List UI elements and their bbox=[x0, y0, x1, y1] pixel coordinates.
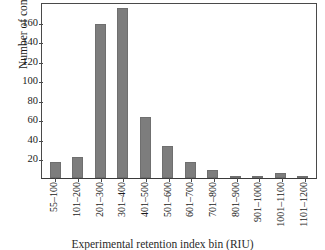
bar[interactable] bbox=[207, 170, 218, 178]
y-tick-mark bbox=[39, 121, 43, 122]
bar[interactable] bbox=[72, 157, 83, 179]
y-tick-mark bbox=[39, 82, 43, 83]
x-axis-title: Experimental retention index bin (RIU) bbox=[0, 238, 325, 250]
bar[interactable] bbox=[297, 176, 308, 178]
x-axis-tick-labels: 55–100101–200201–300301–400401–500501–60… bbox=[41, 183, 317, 233]
bar[interactable] bbox=[95, 24, 106, 178]
x-tick-label-wrap: 301–400 bbox=[116, 183, 128, 231]
x-tick-mark bbox=[282, 178, 283, 182]
bar[interactable] bbox=[162, 146, 173, 178]
x-tick-label-wrap: 901–1000 bbox=[252, 183, 264, 231]
y-tick-label: 80 bbox=[28, 96, 39, 106]
bar-cell bbox=[247, 4, 270, 178]
bar[interactable] bbox=[117, 8, 128, 178]
y-tick-label: 140 bbox=[22, 37, 38, 47]
x-tick-label: 501–600 bbox=[163, 182, 173, 234]
y-tick-mark bbox=[39, 160, 43, 161]
bar-cell bbox=[202, 4, 225, 178]
bar-cell bbox=[224, 4, 247, 178]
bar-cell bbox=[44, 4, 67, 178]
bar-cell bbox=[112, 4, 135, 178]
x-tick-label: 1101–1200 bbox=[299, 182, 309, 234]
bar-series bbox=[42, 4, 316, 178]
x-tick-label-wrap: 801–900 bbox=[230, 183, 242, 231]
x-tick-label-wrap: 55–100 bbox=[48, 183, 60, 231]
bar-cell bbox=[292, 4, 315, 178]
x-tick-mark bbox=[78, 178, 79, 182]
x-tick-label-wrap: 201–300 bbox=[94, 183, 106, 231]
plot-area bbox=[41, 3, 317, 179]
y-tick-mark bbox=[39, 63, 43, 64]
x-tick-label-wrap: 501–600 bbox=[162, 183, 174, 231]
x-tick-mark bbox=[214, 178, 215, 182]
y-tick-label: 100 bbox=[22, 76, 38, 86]
bar-cell bbox=[157, 4, 180, 178]
x-tick-mark bbox=[305, 178, 306, 182]
y-tick-label: 20 bbox=[28, 154, 39, 164]
bar-cell bbox=[67, 4, 90, 178]
x-tick-label: 1001–1100 bbox=[276, 182, 286, 234]
x-tick-mark bbox=[191, 178, 192, 182]
x-tick-mark bbox=[237, 178, 238, 182]
x-tick-label: 101–200 bbox=[72, 182, 82, 234]
x-tick-mark bbox=[146, 178, 147, 182]
x-tick-label: 55–100 bbox=[49, 182, 59, 234]
y-tick-mark bbox=[39, 102, 43, 103]
y-tick-label: 40 bbox=[28, 135, 39, 145]
x-tick-label: 701–800 bbox=[208, 182, 218, 234]
x-tick-label-wrap: 101–200 bbox=[71, 183, 83, 231]
bar[interactable] bbox=[275, 173, 286, 178]
y-tick-label: 60 bbox=[28, 115, 39, 125]
x-tick-label-wrap: 1001–1100 bbox=[275, 183, 287, 231]
x-tick-mark bbox=[259, 178, 260, 182]
x-tick-label-wrap: 1101–1200 bbox=[298, 183, 310, 231]
bar[interactable] bbox=[50, 162, 61, 178]
x-tick-mark bbox=[101, 178, 102, 182]
x-tick-label: 401–500 bbox=[140, 182, 150, 234]
x-tick-mark bbox=[55, 178, 56, 182]
bar-cell bbox=[269, 4, 292, 178]
bar[interactable] bbox=[185, 162, 196, 178]
x-tick-mark bbox=[169, 178, 170, 182]
bar-cell bbox=[89, 4, 112, 178]
y-tick-label: 160 bbox=[22, 18, 38, 28]
x-tick-label-wrap: 701–800 bbox=[207, 183, 219, 231]
y-tick-mark bbox=[39, 24, 43, 25]
y-tick-mark bbox=[39, 43, 43, 44]
x-tick-label: 601–700 bbox=[185, 182, 195, 234]
y-tick-label: 120 bbox=[22, 57, 38, 67]
y-tick-mark bbox=[39, 141, 43, 142]
x-tick-label: 301–400 bbox=[117, 182, 127, 234]
y-axis-tick-labels: 20406080100120140160 bbox=[12, 0, 38, 248]
bar[interactable] bbox=[230, 176, 241, 178]
x-tick-label-wrap: 401–500 bbox=[139, 183, 151, 231]
bar-cell bbox=[134, 4, 157, 178]
bar[interactable] bbox=[252, 176, 263, 178]
x-tick-label: 201–300 bbox=[95, 182, 105, 234]
x-tick-label-wrap: 601–700 bbox=[184, 183, 196, 231]
x-tick-label: 901–1000 bbox=[253, 182, 263, 234]
x-tick-mark bbox=[123, 178, 124, 182]
bar[interactable] bbox=[140, 117, 151, 178]
x-tick-label: 801–900 bbox=[231, 182, 241, 234]
bar-cell bbox=[179, 4, 202, 178]
